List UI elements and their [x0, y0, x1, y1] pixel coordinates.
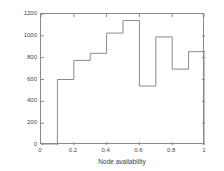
- x-tick-label: 0.2: [63, 147, 83, 153]
- x-tick-label: 0.4: [96, 147, 116, 153]
- y-tick-label: 400: [27, 97, 37, 103]
- x-tick-label: 0: [30, 147, 50, 153]
- plot-area: [40, 13, 204, 144]
- chart-figure: 020040060080010001200 00.20.40.60.81 Nod…: [0, 0, 224, 171]
- x-tick-label: 0.6: [128, 147, 148, 153]
- x-tick-label: 0.8: [161, 147, 181, 153]
- y-tick-label: 1000: [24, 32, 37, 38]
- x-tick-label: 1: [194, 147, 214, 153]
- y-tick-label: 600: [27, 76, 37, 82]
- y-tick-label: 800: [27, 54, 37, 60]
- step-histogram-series: [41, 14, 205, 145]
- step-line: [41, 21, 205, 145]
- y-tick-label: 200: [27, 119, 37, 125]
- x-axis-label: Node availability: [40, 158, 204, 165]
- y-tick-label: 1200: [24, 10, 37, 16]
